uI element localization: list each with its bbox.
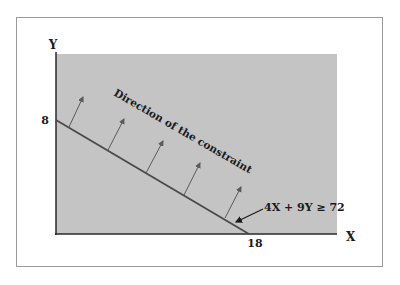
x-intercept-label: 18 <box>247 237 263 250</box>
constraint-diagram: Y X 8 18 4X + 9Y ≥ 72 Direction of the c… <box>0 0 400 285</box>
y-intercept-label: 8 <box>41 114 49 127</box>
x-axis-label: X <box>346 230 356 244</box>
constraint-label: 4X + 9Y ≥ 72 <box>264 201 345 214</box>
y-axis-label: Y <box>48 38 58 52</box>
